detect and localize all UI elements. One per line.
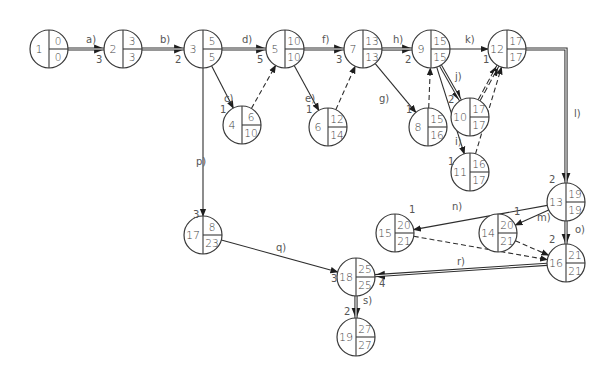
activity-duration: 2 [549,174,555,185]
earliest-time: 8 [209,221,216,233]
event-node-8: 81516 [409,108,447,146]
dummy-activity [479,66,498,101]
network-diagram: 1002333555101071313915151217174610612148… [0,0,612,374]
event-node-10: 101717 [451,98,489,136]
activity-duration: 1 [406,104,412,115]
event-node-16: 162121 [547,244,585,282]
node-id: 5 [272,43,279,56]
latest-time: 13 [365,51,378,63]
activity-label: h) [393,34,403,45]
activity-label: l) [574,108,581,119]
activity-label: o) [575,224,585,235]
earliest-time: 19 [568,188,581,200]
activity-label: q) [276,242,286,253]
earliest-time: 15 [430,113,443,125]
latest-time: 17 [472,119,485,131]
activity-label: j) [454,71,462,82]
latest-time: 21 [397,235,410,247]
earliest-time: 5 [209,35,216,47]
activity-duration: 2 [549,234,555,245]
node-id: 4 [229,119,236,132]
latest-time: 23 [205,237,218,249]
activity-duration: 1 [448,156,454,167]
latest-time: 27 [358,339,371,351]
activity-label: p) [196,156,206,167]
activity-network-svg: 1002333555101071313915151217174610612148… [0,0,612,374]
dummy-activity [336,66,355,109]
event-node-11: 111617 [451,153,489,191]
earliest-time: 0 [55,35,62,47]
activity-duration: 1 [306,104,312,115]
event-node-4: 4610 [223,106,261,144]
dummy-activity [515,241,548,256]
event-node-13: 131919 [547,183,585,221]
activity-duration: 1 [220,104,226,115]
earliest-time: 10 [287,35,300,47]
node-id: 17 [186,229,200,242]
node-id: 12 [490,43,504,56]
event-node-1: 100 [30,30,68,68]
activity-label: r) [457,256,465,267]
latest-time: 21 [568,265,581,277]
latest-time: 16 [430,129,443,141]
activity-duration: 5 [257,54,263,65]
activity-duration: 2 [175,54,181,65]
event-node-12: 121717 [488,30,526,68]
earliest-time: 21 [568,249,581,261]
event-node-17: 17823 [184,216,222,254]
latest-time: 21 [500,235,513,247]
node-id: 15 [378,227,392,240]
activity-duration: 2 [344,306,350,317]
event-node-19: 192727 [337,318,375,356]
activity-label: n) [452,201,462,212]
latest-time: 17 [509,51,522,63]
activity-label: g) [379,93,389,104]
earliest-time: 25 [358,263,371,275]
event-node-14: 142021 [479,214,517,252]
node-id: 18 [339,271,353,284]
labels-layer: a)3b)2c)1d)5e)1f)3g)1h)2k)1j)2i)1l)2m)1n… [86,34,585,317]
earliest-time: 17 [472,103,485,115]
activity-label: k) [465,34,475,45]
event-node-3: 355 [184,30,222,68]
node-id: 9 [418,43,425,56]
earliest-time: 12 [330,113,343,125]
activity-label: m) [537,212,551,223]
activity-duration: 3 [331,273,337,284]
edges-layer [68,49,566,318]
latest-time: 25 [358,279,371,291]
latest-time: 3 [129,51,136,63]
earliest-time: 6 [248,111,255,123]
latest-time: 17 [472,174,485,186]
activity-label: d) [242,34,252,45]
event-node-9: 91515 [412,30,450,68]
event-node-2: 233 [104,30,142,68]
latest-time: 19 [568,204,581,216]
nodes-layer: 1002333555101071313915151217174610612148… [30,30,585,356]
earliest-time: 27 [358,323,371,335]
activity-duration: 3 [193,209,199,220]
activity-label: e) [305,93,315,104]
earliest-time: 17 [509,35,522,47]
earliest-time: 15 [433,35,446,47]
earliest-time: 13 [365,35,378,47]
latest-time: 5 [209,51,216,63]
node-id: 3 [190,43,197,56]
event-node-5: 51010 [266,30,304,68]
event-node-18: 182525 [337,258,375,296]
latest-time: 15 [433,51,446,63]
earliest-time: 3 [129,35,136,47]
node-id: 1 [36,43,43,56]
activity-duration: 3 [96,54,102,65]
activity-l [526,49,566,183]
latest-time: 14 [330,129,343,141]
activity-label: s) [363,295,372,306]
activity-duration: 2 [448,94,454,105]
earliest-time: 20 [500,219,513,231]
activity-duration: 2 [405,54,411,65]
activity-label: b) [160,34,170,45]
dummy-activity [429,68,431,108]
latest-time: 10 [287,51,300,63]
node-id: 13 [549,196,563,209]
node-id: 7 [350,43,357,56]
